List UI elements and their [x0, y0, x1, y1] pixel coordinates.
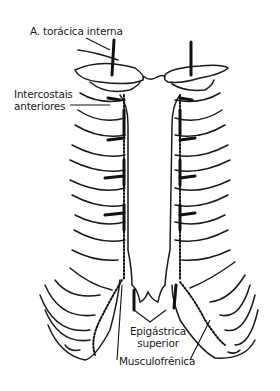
right-ribs — [172, 93, 258, 358]
right-rib-oval — [172, 80, 214, 90]
sternum-left-edge — [120, 95, 132, 285]
leader-epigastric — [134, 310, 166, 322]
label-epigastric-line2: superior — [126, 337, 190, 349]
leader-internal-thoracic — [86, 38, 110, 50]
label-musculophrenic: Musculofrênica — [119, 355, 195, 367]
right-superior-epigastric — [174, 285, 176, 308]
xiphoid-process — [132, 285, 165, 302]
label-internal-thoracic: A. torácica interna — [30, 25, 123, 37]
right-first-rib — [164, 65, 228, 82]
anatomy-diagram: A. torácica interna Intercostais anterio… — [0, 0, 280, 391]
manubrium-notch — [143, 76, 165, 80]
label-intercostals-line1: Intercostais — [14, 88, 73, 100]
left-first-rib — [75, 63, 143, 83]
label-intercostals-line2: anteriores — [14, 100, 65, 112]
left-ribs — [40, 93, 125, 360]
sternum-right-edge — [165, 95, 180, 285]
label-epigastric-line1: Epigástrica — [126, 325, 190, 337]
